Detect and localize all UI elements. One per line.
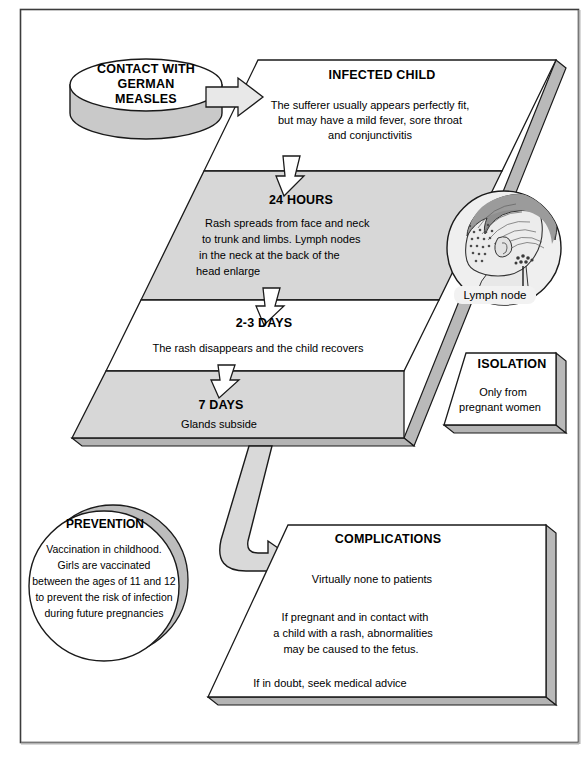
stage-body-7days-1: Glands subside xyxy=(181,418,257,430)
prevention-heading: PREVENTION xyxy=(66,517,144,531)
stage-body-24h-3: in the neck at the back of the xyxy=(199,249,340,261)
stage-body-24h-1: Rash spreads from face and neck xyxy=(205,217,370,229)
child-head-illustration: Lymph node xyxy=(447,191,561,306)
complications-p3-l1: If in doubt, seek medical advice xyxy=(253,677,406,689)
prevention-body-5: during future pregnancies xyxy=(44,607,163,619)
complications-bottom-bevel xyxy=(208,697,556,705)
isolation-body-2: pregnant women xyxy=(459,401,541,413)
diagram-canvas: CONTACT WITH GERMAN MEASLES INFECTED CHI… xyxy=(0,0,587,761)
prevention-body-1: Vaccination in childhood. xyxy=(46,543,161,555)
stage-body-24h-4: head enlarge xyxy=(196,265,260,277)
complications-heading: COMPLICATIONS xyxy=(335,532,442,546)
lymph-node-caption: Lymph node xyxy=(464,289,527,301)
complications-right-bevel xyxy=(546,525,556,705)
stage-heading-24-hours: 24 HOURS xyxy=(269,193,333,207)
contact-node-line-3: MEASLES xyxy=(115,92,177,106)
stage-heading-2-3-days: 2-3 DAYS xyxy=(236,316,293,330)
stage-body-infected-child-2: but may have a mild fever, sore throat xyxy=(278,114,462,126)
prevention-body-4: to prevent the risk of infection xyxy=(35,591,172,603)
prevention-node: PREVENTION Vaccination in childhood. Gir… xyxy=(29,505,188,661)
contact-node-line-1: CONTACT WITH xyxy=(97,62,195,76)
prevention-body-2: Girls are vaccinated xyxy=(58,559,151,571)
slab-bottom-bevel xyxy=(72,438,414,446)
isolation-panel: ISOLATION Only from pregnant women xyxy=(444,353,566,433)
complications-p2-l3: may be caused to the fetus. xyxy=(283,643,418,655)
stage-body-infected-child-1: The sufferer usually appears perfectly f… xyxy=(271,99,470,111)
isolation-bottom-bevel xyxy=(444,425,566,433)
complications-p1-l1: Virtually none to patients xyxy=(312,573,433,585)
contact-node-line-2: GERMAN xyxy=(118,77,175,91)
complications-p2-l1: If pregnant and in contact with xyxy=(282,611,429,623)
stage-body-23days-1: The rash disappears and the child recove… xyxy=(153,342,364,354)
prevention-body-3: between the ages of 11 and 12 xyxy=(32,575,176,587)
stage-heading-infected-child: INFECTED CHILD xyxy=(329,68,436,82)
stage-body-24h-2: to trunk and limbs. Lymph nodes xyxy=(202,233,361,245)
complications-p2-l2: a child with a rash, abnormalities xyxy=(273,627,433,639)
isolation-heading: ISOLATION xyxy=(478,357,547,371)
rubella-flow-diagram: CONTACT WITH GERMAN MEASLES INFECTED CHI… xyxy=(0,0,587,761)
stage-heading-7-days: 7 DAYS xyxy=(198,398,243,412)
contact-node: CONTACT WITH GERMAN MEASLES xyxy=(70,59,222,139)
stage-body-infected-child-3: and conjunctivitis xyxy=(328,129,412,141)
isolation-body-1: Only from xyxy=(479,386,527,398)
isolation-right-bevel xyxy=(556,353,566,433)
complications-panel: COMPLICATIONS Virtually none to patients… xyxy=(208,525,556,705)
